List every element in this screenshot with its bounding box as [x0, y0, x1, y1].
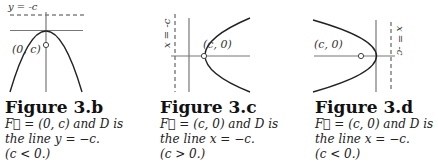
caption-line-1: F⃗ = (c, 0) and D is — [315, 117, 438, 132]
figure-3c: x = -c (c, 0) Figure 3.c F⃗ = (c, 0) and… — [140, 0, 285, 165]
caption-line-1: F⃗ = (c, 0) and D is — [160, 117, 300, 132]
directrix-label: y = -c — [8, 1, 37, 12]
directrix-label: x = -c — [161, 19, 172, 48]
caption-line-2: the line x = −c. — [160, 132, 300, 147]
caption-line-3: (c < 0.) — [315, 147, 438, 162]
caption-line-2: the line x = −c. — [315, 132, 438, 147]
directrix-label: x = -c — [395, 26, 406, 55]
caption-line-1: F⃗ = (0, c) and D is — [5, 117, 145, 132]
figure-caption: Figure 3.b F⃗ = (0, c) and D is the line… — [5, 98, 145, 162]
focus-label: (c, 0) — [203, 38, 232, 51]
caption-line-3: (c < 0.) — [5, 147, 145, 162]
parabola-curve — [205, 18, 250, 92]
figure-caption: Figure 3.d F⃗ = (c, 0) and D is the line… — [315, 98, 438, 162]
focus-label: (0, c) — [12, 43, 41, 56]
figure-title: Figure 3.b — [5, 98, 145, 117]
focus-point — [358, 53, 363, 58]
focus-point — [201, 53, 206, 58]
caption-line-3: (c > 0.) — [160, 147, 300, 162]
figure-3b: y = -c (0, c) Figure 3.b F⃗ = (0, c) and… — [0, 0, 140, 165]
focus-point — [43, 42, 48, 47]
focus-label: (c, 0) — [314, 38, 343, 51]
figure-title: Figure 3.d — [315, 98, 438, 117]
figure-3d: x = -c (c, 0) Figure 3.d F⃗ = (c, 0) and… — [285, 0, 424, 165]
caption-line-2: the line y = −c. — [5, 132, 145, 147]
figure-caption: Figure 3.c F⃗ = (c, 0) and D is the line… — [160, 98, 300, 162]
figure-title: Figure 3.c — [160, 98, 300, 117]
